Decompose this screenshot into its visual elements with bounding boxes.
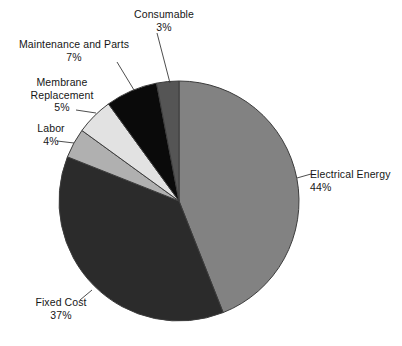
pie-label-electrical-energy-name: Electrical Energy — [310, 168, 390, 180]
pie-label-membrane-replacement-name-line2: Replacement — [8, 89, 116, 102]
pie-label-membrane-replacement: Membrane Replacement 5% — [8, 76, 116, 114]
pie-label-electrical-energy: Electrical Energy 44% — [310, 168, 402, 193]
pie-label-membrane-replacement-name-line1: Membrane — [37, 76, 88, 88]
pie-label-labor: Labor 4% — [16, 122, 86, 147]
pie-label-fixed-cost: Fixed Cost 37% — [18, 296, 104, 321]
leader-line-electrical — [297, 174, 311, 178]
pie-label-fixed-cost-name: Fixed Cost — [35, 296, 86, 308]
pie-label-labor-percent: 4% — [16, 135, 86, 148]
pie-slices — [59, 81, 299, 321]
pie-label-electrical-energy-percent: 44% — [310, 181, 402, 194]
pie-label-maintenance-and-parts-name: Maintenance and Parts — [19, 38, 129, 50]
leader-line-maintenance — [117, 62, 134, 90]
pie-label-maintenance-and-parts: Maintenance and Parts 7% — [4, 38, 144, 63]
page-caption-fragment — [0, 334, 402, 346]
leader-line-consumable — [157, 33, 170, 83]
pie-label-consumable: Consumable 3% — [112, 8, 216, 33]
pie-label-consumable-percent: 3% — [112, 21, 216, 34]
pie-label-maintenance-and-parts-percent: 7% — [4, 51, 144, 64]
pie-chart: Consumable 3% Maintenance and Parts 7% M… — [0, 0, 402, 346]
pie-label-consumable-name: Consumable — [134, 8, 194, 20]
pie-label-fixed-cost-percent: 37% — [18, 309, 104, 322]
pie-label-labor-name: Labor — [37, 122, 64, 134]
pie-label-membrane-replacement-percent: 5% — [8, 101, 116, 114]
